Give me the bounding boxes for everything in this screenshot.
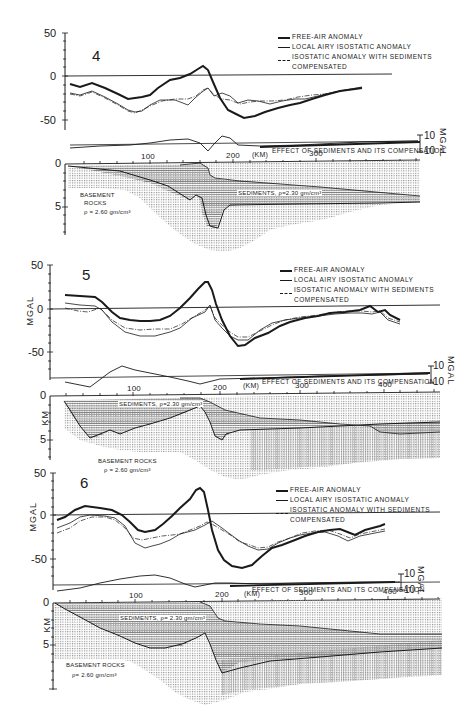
p6-xtick-400: 400 [383,587,397,596]
p4-xtick-300: 300 [309,149,323,158]
p5-ytick-0: 0 [37,303,43,315]
p4-depth-5: 5 [55,200,61,212]
legend-isostatic-sed: ISOSTATIC ANOMALY WITH SEDIMENTS [294,286,434,293]
legend-compensated: COMPENSATED [290,516,345,523]
p5-depth-0: 0 [40,389,46,401]
p4-basement-label-1: BASEMENT [80,192,115,198]
panel-5 [47,265,440,480]
legend-free-air: FREE-AIR ANOMALY [292,33,363,40]
p5-xtick-100: 100 [127,384,141,393]
p6-basement-label: BASEMENT ROCKS [66,662,125,668]
p6-depth-0: 0 [43,596,49,608]
p6-km-unit: (KM) [244,590,260,597]
p5-sediments-label: SEDIMENTS, ρ=2.30 gm/cm³ [118,401,203,407]
p6-mgal-axis-label: MGAL [28,502,38,532]
p5-mgal-axis-label: MGAL [25,296,35,326]
p6-xtick-100: 100 [129,591,143,600]
p4-depth-0: 0 [55,157,61,169]
p5-scale-bottom: 10 [433,376,444,387]
p4-scale-bottom: 10 [424,145,435,156]
p6-ytick-50: 50 [34,467,46,479]
p6-ytick-0: 0 [40,509,46,521]
p4-basement-label-2: ROCKS [84,200,106,206]
legend-compensated: COMPENSATED [294,296,349,303]
p5-ytick-50: 50 [31,259,43,271]
p4-mgal-label: MGAL [438,128,448,158]
p5-xtick-200: 200 [213,383,227,392]
p5-mgal-label: MGAL [446,356,456,386]
p5-km-axis-label: KM [40,410,50,426]
figure-canvas [0,0,469,724]
panel-4 [62,33,423,252]
p4-ytick-neg50: -50 [40,114,56,126]
p4-km-unit: (KM) [252,151,268,158]
p4-ytick-0: 0 [50,70,56,82]
p5-basement-label: BASEMENT ROCKS [98,458,157,464]
legend-free-air: FREE-AIR ANOMALY [294,266,365,273]
p5-effect-label: EFFECT OF SEDIMENTS AND ITS COMPENSATION [262,378,435,385]
p6-panel-number: 6 [80,474,88,491]
p5-panel-number: 5 [82,266,90,283]
legend-local-airy: LOCAL AIRY ISOSTATIC ANOMALY [290,496,409,503]
legend-local-airy: LOCAL AIRY ISOSTATIC ANOMALY [292,43,411,50]
p4-basement-density: ρ = 2.60 gm/cm³ [84,209,131,215]
p6-scale-top: 10 [404,568,415,579]
p5-basement-density: ρ = 2.60 gm/cm³ [104,467,151,473]
p4-effect-label: EFFECT OF SEDIMENTS AND ITS COMPENSATION [272,147,445,154]
p6-depth-5: 5 [43,638,49,650]
legend-free-air: FREE-AIR ANOMALY [290,486,361,493]
p5-km-unit: (KM) [243,382,259,389]
p5-depth-5: 5 [40,433,46,445]
p5-ytick-neg50: -50 [28,346,44,358]
p5-xtick-300: 300 [295,381,309,390]
legend-isostatic-sed: ISOSTATIC ANOMALY WITH SEDIMENTS [292,53,432,60]
p6-mgal-label: MGAL [416,566,426,596]
p5-scale-top: 10 [433,360,444,371]
p4-ytick-50: 50 [44,27,56,39]
p6-xtick-200: 200 [215,590,229,599]
legend-local-airy: LOCAL AIRY ISOSTATIC ANOMALY [294,276,413,283]
p6-xtick-300: 300 [299,588,313,597]
p6-km-axis-label: KM [42,617,52,633]
p6-sediments-label: SEDIMENTS, ρ= 2.30 gm/cm³ [119,615,206,621]
p6-effect-label: EFFECT OF SEDIMENTS AND ITS COMPENSATION [252,586,425,593]
legend-compensated: COMPENSATED [292,63,347,70]
p5-xtick-400: 400 [378,380,392,389]
p4-sediments-label: SEDIMENTS, ρ=2.30 gm/cm³ [237,190,322,196]
p4-xtick-100: 100 [141,152,155,161]
legend-isostatic-sed: ISOSTATIC ANOMALY WITH SEDIMENTS [290,506,430,513]
p6-basement-density: ρ= 2.60 gm/cm³ [72,672,117,678]
p6-scale-bottom: 10 [404,584,415,595]
p4-scale-top: 10 [424,130,435,141]
p6-ytick-neg50: -50 [31,553,47,565]
p4-panel-number: 4 [92,47,100,64]
p4-xtick-200: 200 [226,151,240,160]
